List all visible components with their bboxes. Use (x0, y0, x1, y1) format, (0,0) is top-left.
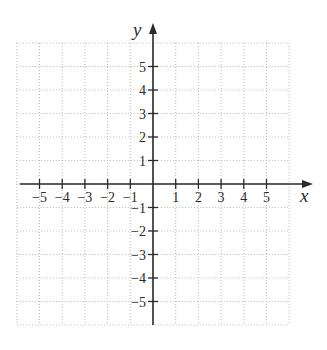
y-tick-label: 5 (139, 60, 146, 75)
x-tick-label: −5 (32, 190, 47, 205)
x-tick-label: 4 (240, 190, 247, 205)
y-tick-label: 3 (139, 107, 146, 122)
x-axis-label: x (299, 185, 309, 206)
y-tick-label: −5 (131, 295, 146, 310)
y-tick-label: −4 (131, 271, 146, 286)
x-tick-label: 5 (263, 190, 270, 205)
y-tick-label: 4 (139, 83, 146, 98)
x-tick-label: 2 (195, 190, 202, 205)
y-tick-label: −3 (131, 248, 146, 263)
x-tick-label: −3 (77, 190, 92, 205)
y-tick-label: 2 (139, 130, 146, 145)
x-tick-label: 3 (218, 190, 225, 205)
coordinate-plane: −5−4−3−2−11234554321−1−2−3−4−5 x y (0, 0, 327, 350)
y-tick-label: −1 (131, 201, 146, 216)
x-tick-label: −4 (55, 190, 70, 205)
y-tick-label: 1 (139, 154, 146, 169)
axes (20, 23, 313, 325)
y-axis-arrow-icon (149, 23, 157, 34)
y-axis-label: y (131, 19, 142, 40)
y-tick-label: −2 (131, 224, 146, 239)
x-tick-label: 1 (172, 190, 179, 205)
x-tick-label: −2 (100, 190, 115, 205)
